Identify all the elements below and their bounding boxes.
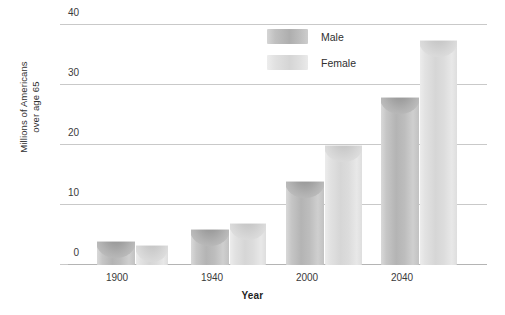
bar-top-edge: [191, 229, 229, 230]
legend-swatch-male-icon: [267, 29, 308, 44]
y-axis-title-line-1: Millions of Americans: [18, 61, 30, 152]
xtick-label-1940: 1940: [172, 272, 252, 283]
bar-1900-female[interactable]: [136, 245, 168, 265]
legend-item-male[interactable]: Male: [267, 29, 356, 44]
bar-1940-male[interactable]: [191, 229, 229, 265]
bar-2040-female[interactable]: [420, 40, 457, 265]
cylinder-top-icon: [191, 229, 229, 246]
bar-body: [381, 97, 419, 265]
cylinder-top-icon: [136, 245, 168, 262]
y-axis-title-line-2: over age 65: [30, 81, 42, 132]
bar-2040-male[interactable]: [381, 97, 419, 265]
chart-figure: Millions of Americans over age 65 40 30 …: [0, 0, 505, 315]
ytick-rule-40: [60, 24, 88, 25]
legend-swatch-female-icon: [267, 55, 308, 70]
x-axis-title: Year: [0, 290, 505, 301]
ytick-label-30: 30: [68, 67, 79, 78]
ytick-label-20: 20: [68, 127, 79, 138]
cylinder-top-icon: [230, 223, 266, 240]
y-axis-title: Millions of Americans over age 65: [13, 47, 47, 167]
bar-2000-female[interactable]: [325, 145, 362, 265]
cylinder-top-icon: [381, 97, 419, 114]
xtick-label-1900: 1900: [77, 272, 157, 283]
bar-2000-male[interactable]: [286, 181, 324, 265]
bar-1900-male[interactable]: [97, 241, 135, 265]
bar-top-edge: [230, 223, 266, 224]
cylinder-top-icon: [286, 181, 324, 198]
legend: Male Female: [267, 29, 356, 81]
ytick-label-0: 0: [73, 247, 79, 258]
xtick-label-2040: 2040: [362, 272, 442, 283]
bar-body: [420, 40, 457, 265]
ytick-rule-10: [60, 204, 88, 205]
bar-1940-female[interactable]: [230, 223, 266, 265]
ytick-rule-30: [60, 84, 88, 85]
xtick-label-2000: 2000: [267, 272, 347, 283]
cylinder-top-icon: [325, 145, 362, 162]
bar-top-edge: [381, 97, 419, 98]
ytick-label-10: 10: [68, 187, 79, 198]
ytick-label-40: 40: [68, 7, 79, 18]
legend-label-male: Male: [321, 31, 344, 43]
legend-item-female[interactable]: Female: [267, 55, 356, 70]
bar-top-edge: [136, 245, 168, 246]
cylinder-top-icon: [97, 241, 135, 258]
legend-label-female: Female: [321, 57, 356, 69]
bar-body: [325, 145, 362, 265]
bar-top-edge: [286, 181, 324, 182]
bar-top-edge: [97, 241, 135, 242]
bar-top-edge: [325, 145, 362, 146]
ytick-rule-20: [60, 144, 88, 145]
cylinder-top-icon: [420, 40, 457, 57]
bar-top-edge: [420, 40, 457, 41]
